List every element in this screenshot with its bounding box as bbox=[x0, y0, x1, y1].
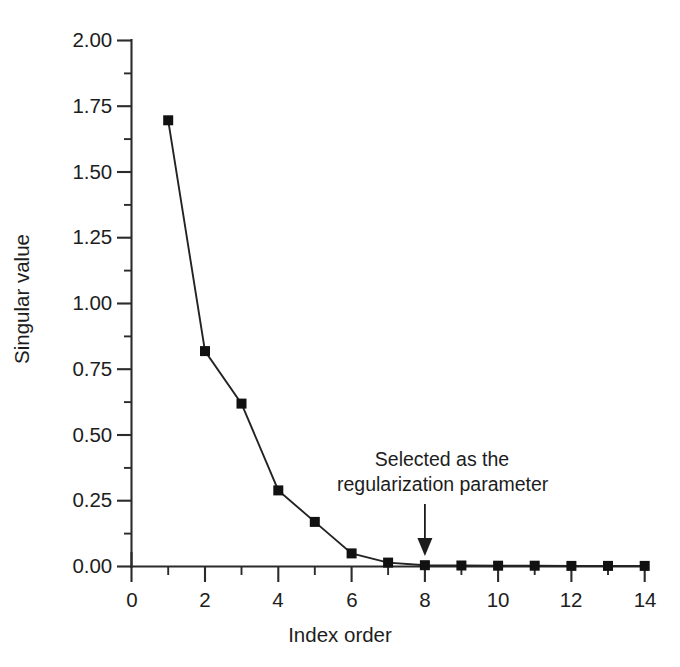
data-point bbox=[566, 561, 576, 571]
data-point bbox=[603, 561, 613, 571]
x-tick-label: 14 bbox=[619, 588, 671, 612]
data-point bbox=[273, 485, 283, 495]
x-tick-label: 6 bbox=[326, 588, 378, 612]
annotation-down-arrow-icon bbox=[417, 504, 432, 556]
data-point bbox=[383, 558, 393, 568]
x-tick-label: 0 bbox=[106, 588, 158, 612]
y-axis-major-ticks bbox=[117, 41, 132, 567]
data-point bbox=[200, 346, 210, 356]
data-point-markers bbox=[163, 115, 650, 571]
data-point bbox=[237, 399, 247, 409]
data-point bbox=[163, 115, 173, 125]
data-point bbox=[493, 561, 503, 571]
x-tick-label: 2 bbox=[179, 588, 231, 612]
x-axis-label: Index order bbox=[0, 623, 680, 647]
annotation-text-line-2: regularization parameter bbox=[337, 472, 547, 497]
x-tick-label: 12 bbox=[545, 588, 597, 612]
figure-singular-value-plot: 2.00 1.75 1.50 1.25 1.00 0.75 0.50 0.25 … bbox=[0, 0, 680, 667]
x-tick-label: 10 bbox=[472, 588, 524, 612]
data-series-line bbox=[168, 120, 645, 566]
x-tick-label: 4 bbox=[252, 588, 304, 612]
data-point bbox=[530, 561, 540, 571]
annotation-text: Selected as the regularization parameter bbox=[337, 447, 547, 497]
y-axis-label-container: Singular value bbox=[0, 0, 46, 607]
data-point bbox=[640, 561, 650, 571]
data-point bbox=[310, 517, 320, 527]
data-point bbox=[456, 561, 466, 571]
annotation-text-line-1: Selected as the bbox=[337, 447, 547, 472]
data-point bbox=[347, 548, 357, 558]
x-tick-label: 8 bbox=[399, 588, 451, 612]
y-axis-label: Singular value bbox=[10, 219, 34, 379]
data-point bbox=[420, 560, 430, 570]
x-axis-minor-ticks bbox=[168, 567, 608, 575]
